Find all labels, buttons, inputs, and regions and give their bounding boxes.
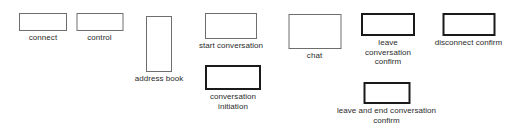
node-label-leave-conversation-confirm: leaveconversationconfirm <box>365 38 411 67</box>
node-box-start-conversation[interactable] <box>205 13 257 39</box>
node-label-line: confirm <box>337 116 436 126</box>
node-label-line: control <box>87 33 111 43</box>
node-label-line: address book <box>135 74 184 84</box>
node-label-disconnect-confirm: disconnect confirm <box>435 38 503 48</box>
node-label-line: conversation <box>210 92 256 102</box>
node-label-line: conversation <box>365 48 411 58</box>
node-box-address-book[interactable] <box>146 16 172 72</box>
node-label-line: connect <box>29 33 57 43</box>
node-box-control[interactable] <box>76 13 123 31</box>
node-label-chat: chat <box>307 51 322 61</box>
node-box-chat[interactable] <box>288 14 341 49</box>
node-label-line: initiation <box>210 102 256 112</box>
node-label-line: leave and end conversation <box>337 106 436 116</box>
node-label-line: start conversation <box>199 41 263 51</box>
node-label-control: control <box>87 33 111 43</box>
node-label-line: disconnect confirm <box>435 38 503 48</box>
node-label-start-conversation: start conversation <box>199 41 263 51</box>
node-box-leave-conversation-confirm[interactable] <box>361 13 415 36</box>
node-label-line: chat <box>307 51 322 61</box>
node-label-line: leave <box>365 38 411 48</box>
node-box-connect[interactable] <box>19 13 67 31</box>
node-label-connect: connect <box>29 33 57 43</box>
node-label-leave-and-end-conversation-confirm: leave and end conversationconfirm <box>337 106 436 125</box>
node-box-conversation-initiation[interactable] <box>205 65 261 90</box>
node-label-conversation-initiation: conversationinitiation <box>210 92 256 111</box>
node-box-disconnect-confirm[interactable] <box>442 13 495 36</box>
node-label-line: confirm <box>365 57 411 67</box>
node-label-address-book: address book <box>135 74 184 84</box>
node-box-leave-and-end-conversation-confirm[interactable] <box>363 82 410 104</box>
screen-map-diagram: connectcontroladdress bookstart conversa… <box>0 0 514 134</box>
